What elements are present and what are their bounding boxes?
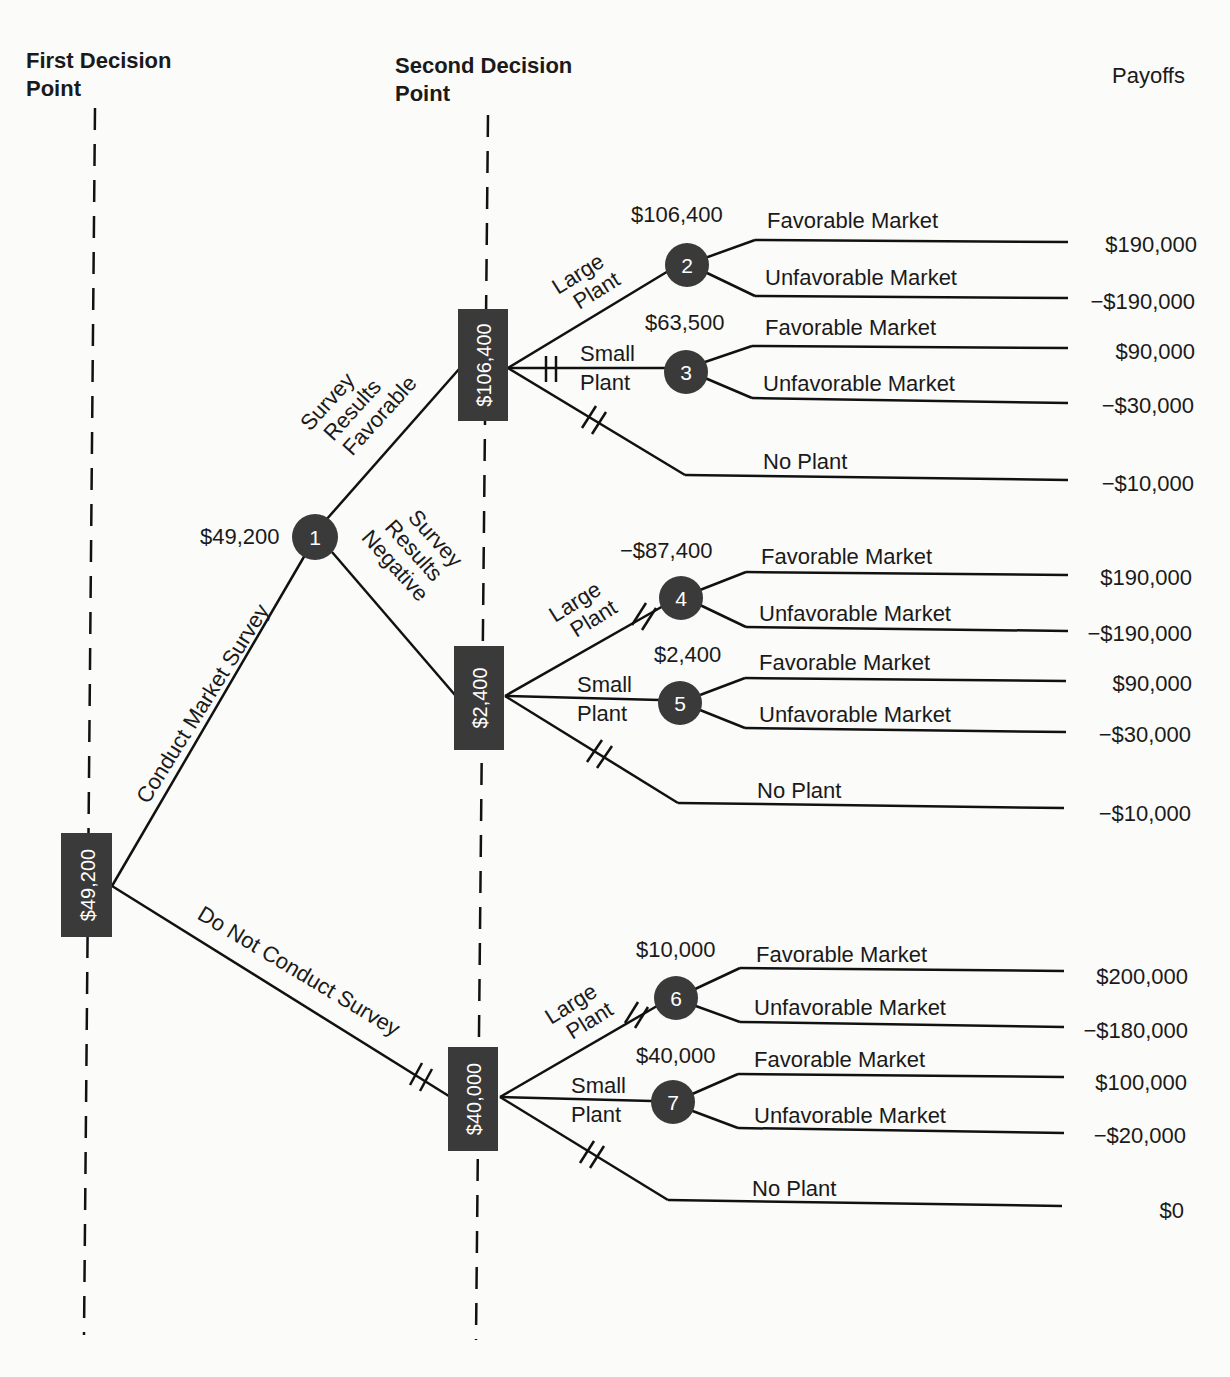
- small-plant-label: Small: [580, 341, 635, 366]
- node-7-ev: $40,000: [636, 1043, 716, 1068]
- decision-node-root: $49,200: [61, 833, 112, 937]
- payoff-value: $100,000: [1095, 1070, 1187, 1095]
- outcome-label: Unfavorable Market: [754, 995, 946, 1020]
- payoff-value: −$180,000: [1083, 1018, 1188, 1043]
- small-plant-label: Small: [571, 1073, 626, 1098]
- chance-node-label: 5: [674, 692, 686, 715]
- small-plant-label: Plant: [580, 370, 630, 395]
- outcome-label: Favorable Market: [759, 650, 930, 675]
- node-3-ev: $63,500: [645, 310, 725, 335]
- payoff-value: $90,000: [1112, 671, 1192, 696]
- payoff-value: −$30,000: [1099, 722, 1191, 747]
- node-4-ev: −$87,400: [620, 538, 712, 563]
- outcome-label: Unfavorable Market: [759, 601, 951, 626]
- payoff-value: $190,000: [1105, 232, 1197, 257]
- outcome-label: Unfavorable Market: [763, 371, 955, 396]
- chance-node-label: 4: [675, 587, 687, 610]
- large-plant-label: Large Plant: [540, 976, 617, 1049]
- payoff-value: −$190,000: [1087, 621, 1192, 646]
- payoff-column: $190,000 −$190,000 $90,000 −$30,000 −$10…: [1083, 232, 1197, 1223]
- root-value: $49,200: [77, 849, 99, 921]
- outcome-label: Unfavorable Market: [759, 702, 951, 727]
- payoff-value: $190,000: [1100, 565, 1192, 590]
- negative-branch-label: Survey Results Negative: [357, 493, 469, 606]
- decision-value: $2,400: [469, 667, 491, 728]
- decision-node-negative: $2,400: [454, 646, 504, 750]
- chance-node-1-label: 1: [309, 526, 321, 549]
- payoff-value: $200,000: [1096, 964, 1188, 989]
- no-plant-label: No Plant: [763, 449, 847, 474]
- payoff-value: −$10,000: [1099, 801, 1191, 826]
- branch-no-survey: [112, 886, 452, 1098]
- payoff-value: $90,000: [1115, 339, 1195, 364]
- chance-1-value: $49,200: [200, 524, 280, 549]
- chance-node-label: 7: [667, 1091, 679, 1114]
- outcome-label: Favorable Market: [761, 544, 932, 569]
- small-plant-label: Small: [577, 672, 632, 697]
- decision-value: $106,400: [473, 323, 495, 406]
- outcome-label: Favorable Market: [767, 208, 938, 233]
- node-2-ev: $106,400: [631, 202, 723, 227]
- branch-conduct-survey: [112, 555, 305, 886]
- conduct-survey-label: Conduct Market Survey: [131, 599, 274, 807]
- decision-node-favorable: $106,400: [458, 309, 508, 421]
- first-stage-divider: [84, 108, 95, 1335]
- no-survey-label: Do Not Conduct Survey: [193, 901, 404, 1041]
- outcome-label: Favorable Market: [756, 942, 927, 967]
- outcome-label: Favorable Market: [754, 1047, 925, 1072]
- decision-value: $40,000: [463, 1063, 485, 1135]
- no-plant-label: No Plant: [752, 1176, 836, 1201]
- payoff-value: −$10,000: [1102, 471, 1194, 496]
- decision-tree: $49,200 $106,400 $2,400 $40,000 1 2 3 4 …: [0, 0, 1230, 1377]
- outcome-label: Favorable Market: [765, 315, 936, 340]
- payoff-value: −$20,000: [1094, 1123, 1186, 1148]
- chance-node-label: 3: [680, 361, 692, 384]
- decision-node-no-survey: $40,000: [448, 1047, 498, 1151]
- payoff-value: −$30,000: [1102, 393, 1194, 418]
- small-plant-label: Plant: [571, 1102, 621, 1127]
- node-6-ev: $10,000: [636, 937, 716, 962]
- payoff-value: −$190,000: [1090, 289, 1195, 314]
- outcome-label: Unfavorable Market: [765, 265, 957, 290]
- outcome-label: Unfavorable Market: [754, 1103, 946, 1128]
- node-5-ev: $2,400: [654, 642, 721, 667]
- no-plant-label: No Plant: [757, 778, 841, 803]
- favorable-branch-label: Survey Results Favorable: [295, 338, 421, 467]
- chance-node-label: 6: [670, 987, 682, 1010]
- small-plant-label: Plant: [577, 701, 627, 726]
- large-plant-label: Large Plant: [547, 246, 624, 319]
- chance-node-label: 2: [681, 254, 693, 277]
- payoff-value: $0: [1160, 1198, 1184, 1223]
